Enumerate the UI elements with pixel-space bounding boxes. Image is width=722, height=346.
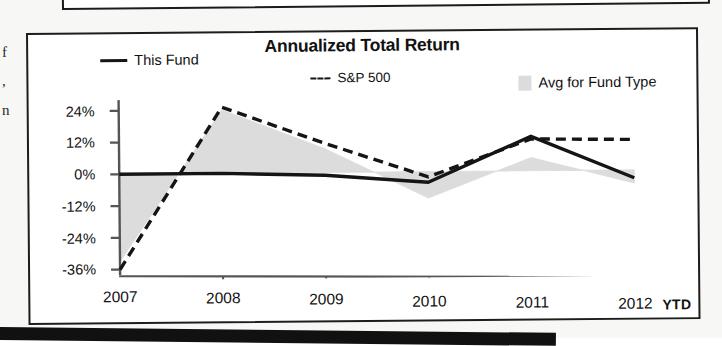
legend-item-avg-for-fund-type: Avg for Fund Type <box>518 74 656 91</box>
y-axis-tick-label: -36% <box>32 262 96 279</box>
page-edge-black-bar <box>0 327 556 346</box>
x-axis-tick-label: 2007 <box>103 288 138 306</box>
gray-area-swatch-icon <box>518 75 531 90</box>
x-axis-tick-label: 2011 <box>516 293 549 311</box>
x-axis-line <box>119 272 645 281</box>
y-axis-tick-label: 0% <box>31 167 95 184</box>
x-axis-ytd-label: YTD <box>662 296 691 312</box>
y-axis-tick-label: 12% <box>31 135 95 152</box>
x-axis-labels: 200720082009201020112012YTD <box>30 279 698 319</box>
x-axis-tick-label: 2009 <box>309 291 344 309</box>
y-axis-tick-label: -24% <box>32 230 96 247</box>
chart-svg <box>101 96 658 281</box>
series-line-sp500 <box>119 104 635 270</box>
legend-label-this-fund: This Fund <box>134 51 199 68</box>
x-axis-tick-label: 2008 <box>206 289 241 307</box>
y-axis-labels: 24%12%0%-12%-24%-36% <box>27 100 97 281</box>
series-area-avg-for-fund-type <box>119 106 635 261</box>
solid-line-swatch-icon <box>100 59 127 62</box>
legend-label-avg-for-fund-type: Avg for Fund Type <box>538 74 656 91</box>
annualized-total-return-chart-panel: Annualized Total Return This Fund S&P 50… <box>26 27 701 325</box>
legend-label-sp500: S&P 500 <box>337 70 390 85</box>
x-axis-tick-label: 2010 <box>412 292 447 310</box>
y-axis-tick-label: -12% <box>31 198 95 215</box>
legend-item-this-fund: This Fund <box>100 51 199 68</box>
y-axis-tick-label: 24% <box>31 103 95 120</box>
dashed-line-swatch-icon <box>310 77 330 79</box>
adjacent-panel-fragment <box>62 0 710 10</box>
legend-item-sp500: S&P 500 <box>310 70 390 86</box>
y-axis-line <box>119 96 121 275</box>
x-axis-tick-label: 2012 <box>618 295 653 313</box>
plot-area <box>101 96 658 281</box>
